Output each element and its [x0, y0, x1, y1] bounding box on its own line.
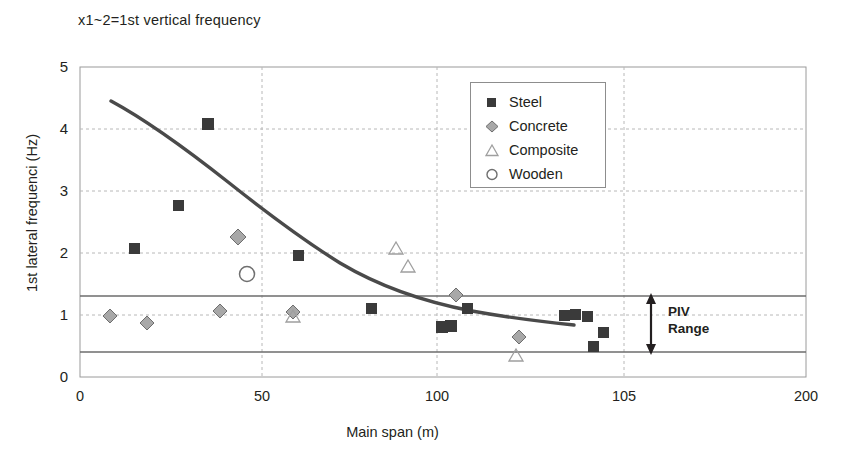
open-circle-icon	[483, 167, 503, 181]
open-triangle-icon	[483, 143, 503, 157]
plot-canvas	[0, 0, 841, 462]
chart-legend: Steel Concrete Composite Wooden	[470, 82, 606, 188]
filled-square-icon	[483, 95, 503, 109]
piv-range-label-line2: Range	[668, 320, 709, 337]
filled-diamond-icon	[483, 119, 503, 133]
legend-item-steel: Steel	[483, 90, 605, 114]
piv-range-label: PIV Range	[668, 303, 709, 337]
point-steel-1	[129, 243, 140, 254]
legend-label-steel: Steel	[509, 94, 542, 110]
point-steel-8	[462, 303, 473, 314]
point-steel-3	[202, 118, 214, 130]
point-steel-7	[445, 320, 457, 332]
legend-label-wooden: Wooden	[509, 166, 563, 182]
point-steel-5	[366, 303, 377, 314]
chart-figure: x1~2=1st vertical frequency 1st lateral …	[0, 0, 841, 462]
point-steel-12	[598, 327, 609, 338]
piv-range-label-line1: PIV	[668, 303, 709, 320]
point-steel-10	[570, 309, 581, 320]
legend-item-wooden: Wooden	[483, 162, 605, 186]
point-steel-4	[293, 250, 304, 261]
point-steel-11	[582, 311, 593, 322]
legend-item-concrete: Concrete	[483, 114, 605, 138]
point-steel-13	[588, 341, 599, 352]
point-steel-9	[559, 310, 570, 321]
legend-label-composite: Composite	[509, 142, 578, 158]
point-steel-2	[173, 200, 184, 211]
legend-item-composite: Composite	[483, 138, 605, 162]
legend-label-concrete: Concrete	[509, 118, 568, 134]
